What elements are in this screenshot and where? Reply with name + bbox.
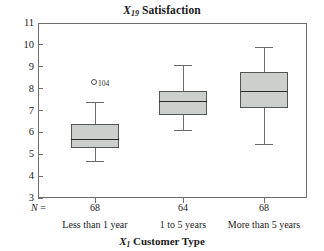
chart-title-text: Satisfaction — [139, 4, 201, 16]
y-axis-tick-label: 11 — [10, 18, 34, 29]
whisker-lower — [264, 108, 265, 144]
chart-title-subscript: 19 — [131, 9, 139, 18]
box-iqr — [71, 124, 119, 148]
whisker-cap-lower — [86, 161, 104, 162]
median-line — [159, 101, 207, 102]
y-axis-tick — [38, 23, 43, 24]
whisker-upper — [264, 47, 265, 72]
y-axis-tick-label: 7 — [10, 106, 34, 117]
box-iqr — [159, 91, 207, 115]
y-axis-tick — [38, 88, 43, 89]
category-label: Less than 1 year — [52, 220, 138, 230]
y-axis-tick-label: 6 — [10, 127, 34, 138]
whisker-upper — [183, 65, 184, 91]
chart-title: X19 Satisfaction — [0, 4, 324, 18]
y-axis-tick — [38, 176, 43, 177]
n-row-label-equals: = — [38, 202, 46, 213]
y-axis-tick — [38, 66, 43, 67]
whisker-lower — [183, 115, 184, 130]
y-axis-tick — [38, 132, 43, 133]
y-axis-tick-label: 9 — [10, 62, 34, 73]
y-axis-tick — [38, 110, 43, 111]
whisker-cap-upper — [86, 102, 104, 103]
median-line — [71, 139, 119, 140]
whisker-cap-upper — [174, 65, 192, 66]
n-value: 68 — [239, 203, 289, 213]
boxplot-chart: X19 Satisfaction 11109876543 104 N = 686… — [0, 0, 324, 251]
x-axis-title-text: Customer Type — [130, 235, 205, 247]
y-axis-tick-label: 4 — [10, 171, 34, 182]
n-value: 68 — [70, 203, 120, 213]
y-axis-tick-label: 8 — [10, 84, 34, 95]
n-row-label: N = — [31, 203, 46, 213]
x-axis-title: X1 Customer Type — [0, 235, 324, 249]
median-line — [240, 91, 288, 92]
whisker-cap-upper — [255, 47, 273, 48]
x-axis-title-variable: X — [119, 235, 126, 247]
category-label: 1 to 5 years — [147, 220, 219, 230]
n-row-label-variable: N — [31, 202, 38, 213]
n-value: 64 — [158, 203, 208, 213]
whisker-cap-lower — [255, 144, 273, 145]
y-axis-tick — [38, 154, 43, 155]
outlier-label: 104 — [98, 80, 109, 88]
category-label: More than 5 years — [219, 220, 309, 230]
whisker-lower — [95, 148, 96, 161]
y-axis-tick — [38, 198, 43, 199]
chart-title-variable: X — [123, 4, 131, 16]
whisker-cap-lower — [174, 130, 192, 131]
y-axis-tick — [38, 44, 43, 45]
y-axis-tick-label: 10 — [10, 40, 34, 51]
whisker-upper — [95, 102, 96, 124]
y-axis-tick-label: 5 — [10, 149, 34, 160]
